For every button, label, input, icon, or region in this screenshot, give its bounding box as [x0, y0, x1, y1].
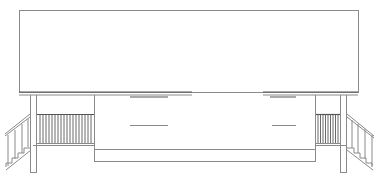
main-wall — [94, 95, 316, 162]
right-stair — [347, 114, 374, 170]
elevation-drawing — [0, 0, 380, 182]
left-porch — [30, 95, 94, 173]
left-stair — [5, 114, 31, 170]
roof — [20, 11, 359, 93]
right-porch — [316, 95, 347, 173]
